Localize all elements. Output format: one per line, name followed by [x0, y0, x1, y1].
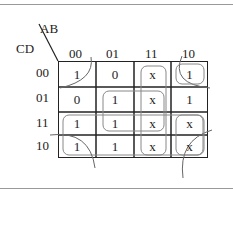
cell-r01-c11: x: [134, 92, 171, 108]
cell-r10-c01: 1: [96, 139, 134, 155]
cell-r00-c11: x: [134, 67, 171, 83]
cell-r01-c01: 1: [96, 92, 134, 108]
cell-r10-c10: x: [171, 139, 208, 155]
cell-r10-c00: 1: [58, 139, 96, 155]
cell-r00-c10: 1: [171, 67, 208, 83]
cell-r11-c01: 1: [96, 116, 134, 132]
cell-r01-c10: 1: [171, 92, 208, 108]
cell-r11-c11: x: [134, 116, 171, 132]
cell-r00-c00: 1: [58, 67, 96, 83]
cell-r10-c11: x: [134, 139, 171, 155]
cell-r00-c01: 0: [96, 67, 134, 83]
cell-r11-c10: x: [171, 116, 208, 132]
cell-r11-c00: 1: [58, 116, 96, 132]
cell-r01-c00: 0: [58, 92, 96, 108]
